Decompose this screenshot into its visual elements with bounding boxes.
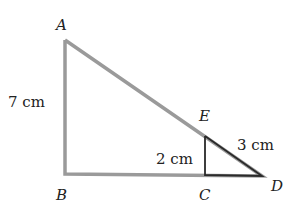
diagram-canvas: A B C D E 7 cm 2 cm 3 cm	[0, 0, 303, 214]
point-label-c: C	[199, 186, 211, 204]
point-label-e: E	[198, 107, 210, 125]
measure-ab: 7 cm	[8, 93, 45, 111]
similar-triangles-diagram: A B C D E 7 cm 2 cm 3 cm	[0, 0, 303, 214]
point-label-a: A	[54, 16, 67, 34]
measure-ce: 2 cm	[156, 150, 193, 168]
measure-ed: 3 cm	[237, 136, 274, 154]
point-label-b: B	[55, 186, 67, 204]
point-label-d: D	[270, 177, 283, 195]
